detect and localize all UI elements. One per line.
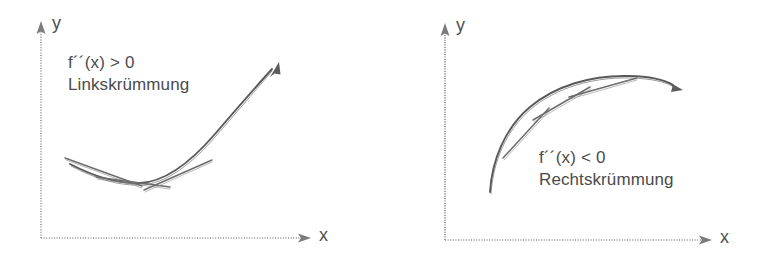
x-axis-concave [445,236,712,245]
annotation-concave-condition: f´´(x) < 0 [539,147,674,169]
annotation-concave-name: Rechtskrümmung [539,169,674,191]
panel-convex: y x f´´(x) > 0 Linkskrümmung [0,0,381,267]
panel-concave-drawing [381,0,763,267]
curvature-figure: y x f´´(x) > 0 Linkskrümmung [0,0,763,267]
y-axis-label-convex: y [52,14,61,32]
annotation-convex: f´´(x) > 0 Linkskrümmung [68,52,189,96]
annotation-concave: f´´(x) < 0 Rechtskrümmung [539,147,674,191]
annotation-convex-condition: f´´(x) > 0 [68,52,189,74]
x-axis-convex [41,234,311,243]
x-axis-label-concave: x [720,228,729,246]
y-axis-label-concave: y [456,16,465,34]
annotation-convex-name: Linkskrümmung [68,74,189,96]
y-axis-convex [37,21,46,238]
panel-concave: y x f´´(x) < 0 Rechtskrümmung [381,0,763,267]
y-axis-concave [441,23,450,240]
tangent-lines-convex [65,158,212,192]
x-axis-label-convex: x [319,226,328,244]
